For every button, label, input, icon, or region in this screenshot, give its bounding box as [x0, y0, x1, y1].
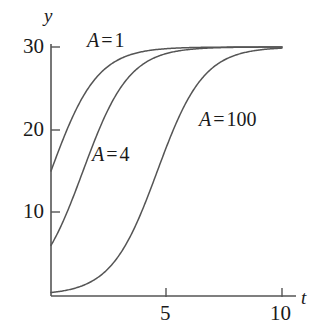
- x-axis-label: t: [301, 288, 306, 307]
- y-tick-label-10: 10: [8, 201, 44, 222]
- x-tick-label-5: 5: [160, 303, 171, 324]
- y-tick-label-30: 30: [8, 36, 44, 57]
- curve-label-a4: A=4: [92, 144, 130, 164]
- curve-label-a1: A=1: [87, 30, 125, 50]
- y-tick-label-20: 20: [8, 119, 44, 140]
- logistic-growth-figure: y t 30 20 10 5 10 A=1 A=4 A=100: [0, 0, 314, 332]
- curve-label-a100: A=100: [199, 109, 257, 129]
- curve-label-a1-eq: =: [99, 29, 114, 51]
- curve-label-a4-eq: =: [104, 143, 119, 165]
- curve-label-a4-num: 4: [120, 143, 130, 165]
- curve-group: [51, 47, 282, 293]
- x-tick-label-10: 10: [270, 303, 291, 324]
- y-axis-label: y: [44, 6, 52, 25]
- curve-label-a100-num: 100: [227, 108, 257, 130]
- curve-label-a100-var: A: [199, 108, 211, 130]
- curve-label-a1-num: 1: [115, 29, 125, 51]
- curve-label-a1-var: A: [87, 29, 99, 51]
- plot-canvas: [0, 0, 314, 332]
- curve-label-a4-var: A: [92, 143, 104, 165]
- curve-a100: [51, 48, 282, 292]
- curve-label-a100-eq: =: [211, 108, 226, 130]
